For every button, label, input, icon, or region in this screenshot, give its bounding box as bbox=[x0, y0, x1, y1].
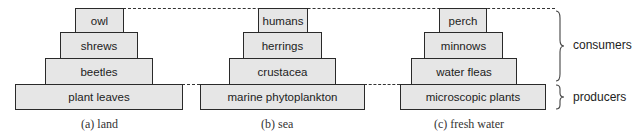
caption-land: (a) land bbox=[81, 117, 118, 132]
level-2-water-fleas: water fleas bbox=[411, 58, 517, 85]
apex-dashed-line bbox=[123, 8, 555, 9]
caption-fresh-water: (c) fresh water bbox=[434, 117, 504, 132]
level-2-crustacea: crustacea bbox=[229, 58, 336, 85]
caption-sea: (b) sea bbox=[261, 117, 293, 132]
consumers-label: consumers bbox=[573, 38, 632, 52]
producers-brace-icon bbox=[555, 84, 565, 110]
level-top-humans: humans bbox=[258, 8, 308, 33]
consumers-brace-icon bbox=[555, 10, 565, 82]
level-2-beetles: beetles bbox=[45, 58, 153, 85]
level-base-plant-leaves: plant leaves bbox=[15, 84, 183, 110]
level-top-owl: owl bbox=[75, 8, 124, 33]
level-3-shrews: shrews bbox=[60, 32, 138, 59]
level-base-marine-phytoplankton: marine phytoplankton bbox=[200, 84, 365, 110]
level-top-perch: perch bbox=[439, 8, 487, 33]
producers-label: producers bbox=[573, 90, 626, 104]
base-dashed-connector-bc bbox=[364, 84, 400, 85]
base-dashed-connector-ab bbox=[182, 84, 200, 85]
level-base-microscopic-plants: microscopic plants bbox=[400, 84, 546, 110]
level-3-herrings: herrings bbox=[243, 32, 322, 59]
level-3-minnows: minnows bbox=[424, 32, 503, 59]
